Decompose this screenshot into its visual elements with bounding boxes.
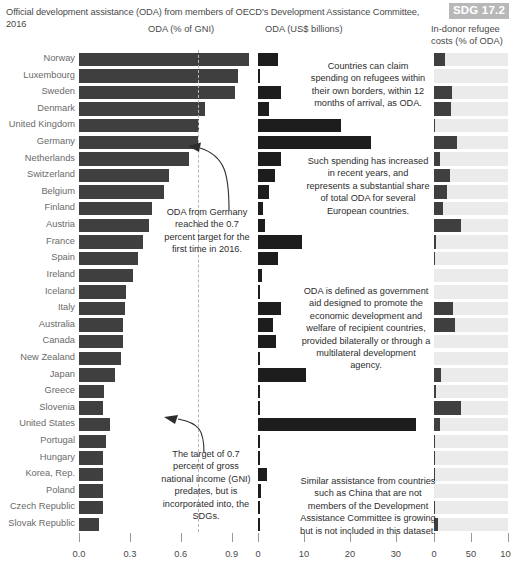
axis-tick-label: 0 xyxy=(419,549,449,559)
country-label: Spain xyxy=(51,251,75,263)
bar-row xyxy=(434,266,508,283)
bar-row xyxy=(434,150,508,167)
bar-track xyxy=(434,335,508,348)
axis-tick-label: 100 xyxy=(493,549,511,559)
bar xyxy=(258,69,260,82)
bar-row xyxy=(434,166,508,183)
annotation-spending: Such spending has increased in recent ye… xyxy=(306,155,430,217)
bar-row xyxy=(434,449,508,466)
country-label: Italy xyxy=(58,301,75,313)
country-label: Finland xyxy=(45,201,76,213)
bar xyxy=(434,86,452,99)
bar-row xyxy=(258,133,428,150)
bar xyxy=(79,451,103,464)
bar xyxy=(434,401,461,414)
country-label: Poland xyxy=(46,484,75,496)
country-row: Slovenia xyxy=(0,399,78,416)
country-row: Sweden xyxy=(0,83,78,100)
country-row: New Zealand xyxy=(0,349,78,366)
bar-row xyxy=(434,283,508,300)
bar-row xyxy=(434,50,508,67)
bar-track xyxy=(434,352,508,365)
country-label: France xyxy=(46,235,75,247)
bar-row xyxy=(434,465,508,482)
bar-track xyxy=(434,501,508,514)
axis-tick-mark xyxy=(79,533,80,542)
country-label: Korea, Rep. xyxy=(25,467,75,479)
bar-row xyxy=(434,133,508,150)
bar-track xyxy=(434,53,508,66)
bar xyxy=(258,252,278,265)
annotation-germany: ODA from Germany reached the 0.7 percent… xyxy=(162,206,252,256)
bar-row xyxy=(79,349,252,366)
bar xyxy=(434,53,445,66)
bar-track xyxy=(434,518,508,531)
bar-row xyxy=(434,249,508,266)
bar xyxy=(258,152,281,165)
country-row: Hungary xyxy=(0,449,78,466)
bar xyxy=(79,401,103,414)
bar xyxy=(258,401,260,414)
bar-row xyxy=(434,415,508,432)
bar xyxy=(258,468,267,481)
bar xyxy=(434,219,461,232)
bar-track xyxy=(434,468,508,481)
annotation-defined: ODA is defined as government aid designe… xyxy=(300,285,432,372)
bar-track xyxy=(434,484,508,497)
bar-track xyxy=(434,269,508,282)
page-title: Official development assistance (ODA) fr… xyxy=(6,6,426,30)
bar-track xyxy=(434,285,508,298)
bar-row xyxy=(79,299,252,316)
bar-row xyxy=(434,366,508,383)
bar-row xyxy=(434,67,508,84)
country-row: Australia xyxy=(0,316,78,333)
bar xyxy=(79,484,103,497)
country-row: Greece xyxy=(0,382,78,399)
bar xyxy=(434,185,447,198)
bar xyxy=(258,235,302,248)
country-label: Australia xyxy=(39,318,75,330)
bar-row xyxy=(434,216,508,233)
bar xyxy=(79,501,103,514)
bar xyxy=(258,335,276,348)
axis-tick-label: 0 xyxy=(243,549,273,559)
country-label: United Kingdom xyxy=(9,118,75,130)
bar xyxy=(258,318,273,331)
country-label: Luxembourg xyxy=(23,69,75,81)
bar-track xyxy=(434,368,508,381)
country-row: Canada xyxy=(0,332,78,349)
bar xyxy=(258,501,260,514)
bar-row xyxy=(79,283,252,300)
bar xyxy=(79,185,164,198)
country-row: Poland xyxy=(0,482,78,499)
bar xyxy=(79,152,189,165)
column-header-refugee-costs: In-donor refugee costs (% of ODA) xyxy=(431,24,509,47)
bar-track xyxy=(434,119,508,132)
bar xyxy=(258,86,281,99)
bar xyxy=(79,385,104,398)
bar xyxy=(434,169,450,182)
country-label: Norway xyxy=(43,52,75,64)
bar xyxy=(434,136,457,149)
panel-refugee-costs xyxy=(434,50,508,532)
bar xyxy=(434,202,443,215)
bar xyxy=(79,318,123,331)
bar-row xyxy=(258,216,428,233)
bar-track xyxy=(434,252,508,265)
country-row: Belgium xyxy=(0,183,78,200)
bar-row xyxy=(434,349,508,366)
chart-page: Official development assistance (ODA) fr… xyxy=(0,0,511,568)
bar xyxy=(258,219,265,232)
country-row: Italy xyxy=(0,299,78,316)
annotation-similar: Similar assistance from countries such a… xyxy=(298,475,438,537)
bar xyxy=(79,518,99,531)
country-label: Slovenia xyxy=(39,401,75,413)
country-label: Canada xyxy=(42,334,75,346)
country-label: Switzerland xyxy=(27,168,75,180)
country-row: Portugal xyxy=(0,432,78,449)
country-label: Ireland xyxy=(47,268,75,280)
bar-row xyxy=(258,249,428,266)
bar-track xyxy=(434,435,508,448)
bar xyxy=(434,435,435,448)
annotation-refugees: Countries can claim spending on refugees… xyxy=(310,60,426,110)
